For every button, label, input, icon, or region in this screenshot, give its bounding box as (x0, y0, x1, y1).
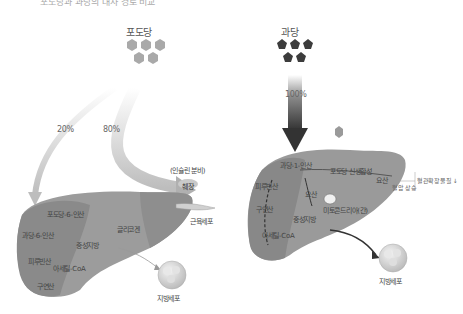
pancreas-label: 췌장 (182, 181, 193, 191)
liver-left-label: 피루빈산 (28, 256, 51, 266)
mitochondria-icon (324, 194, 336, 204)
liver-left-label: 과당-6-인산 (22, 230, 53, 240)
liver-left-label: 아세틸-CoA (53, 263, 85, 273)
flow-label-20: 20% (57, 125, 74, 134)
liver-right-label: 구연산 (256, 204, 273, 214)
liver-right-label: 미토콘드리아(간) (323, 205, 368, 215)
liver-right-label: 아세틸-CoA (262, 230, 294, 240)
glucose-molecules (127, 39, 165, 64)
uric-acid-label: 요산 (376, 175, 387, 185)
liver-right-label: 피루빈산 (255, 181, 278, 191)
flow-arrow-100 (288, 75, 302, 130)
liver-right-label: 중성지방 (293, 214, 316, 224)
flow-label-100: 100% (285, 90, 307, 99)
liver-right-label: 포도당 신생합성 (330, 166, 372, 176)
fat-cell-left-icon (158, 261, 186, 289)
vasodilator-label: 혈관확장물질 ↓ (417, 176, 458, 185)
muscle-cell-icon (176, 203, 215, 209)
fructose-molecules (277, 39, 313, 62)
flow-arrow-20 (35, 88, 115, 195)
liver-left-label: 글리코겐 (117, 224, 140, 234)
blood-pressure-label: 혈압 상승 (392, 183, 416, 192)
fat-cell-right-label: 지방세포 (379, 276, 402, 286)
glucose-title: 포도당 (126, 24, 152, 39)
flow-label-80: 80% (103, 125, 120, 134)
fat-cell-left-label: 지방세포 (157, 293, 180, 303)
insulin-label: (인슐린 분비) (170, 165, 205, 175)
liver-right-label: 요산 (305, 189, 316, 199)
muscle-cell-label: 근육세포 (190, 216, 213, 226)
liver-left-label: 포도당-6-인산 (47, 209, 84, 219)
liver-left-label: 중성지방 (76, 240, 99, 250)
fructose-title: 과당 (281, 24, 298, 39)
liver-right-label: 과당-1-인산 (280, 160, 311, 170)
liver-left-label: 구연산 (37, 281, 54, 291)
